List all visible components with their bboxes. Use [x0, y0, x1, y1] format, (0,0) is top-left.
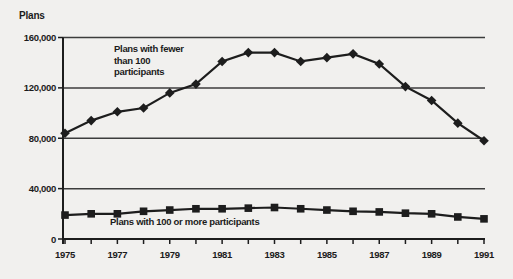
data-point-diamond — [165, 88, 175, 98]
y-tick-label: 80,000 — [29, 133, 56, 144]
data-point-square — [166, 206, 174, 214]
y-axis-title: Plans — [19, 10, 45, 21]
data-point-square — [140, 207, 148, 215]
data-point-diamond — [244, 48, 254, 58]
y-tick-label: 160,000 — [24, 32, 56, 43]
data-point-square — [245, 204, 253, 212]
annotation-line: Plans with 100 or more participants — [110, 216, 259, 228]
data-point-diamond — [348, 49, 358, 59]
y-tick-label: 40,000 — [29, 183, 56, 194]
x-tick-label: 1987 — [369, 249, 389, 260]
x-tick-label: 1983 — [265, 249, 285, 260]
data-point-diamond — [86, 116, 96, 126]
x-tick-label: 1977 — [107, 249, 127, 260]
y-tick-label: 0 — [51, 234, 56, 245]
data-point-square — [271, 204, 279, 212]
data-point-diamond — [270, 48, 280, 58]
data-point-diamond — [139, 103, 149, 113]
annotation-small-plans: Plans with fewer than 100 participants — [114, 43, 184, 78]
data-point-square — [349, 207, 357, 215]
x-tick-label: 1991 — [474, 249, 495, 260]
x-tick-label: 1979 — [160, 249, 180, 260]
annotation-line: Plans with fewer — [114, 43, 184, 55]
annotation-line: participants — [114, 66, 184, 78]
data-point-square — [61, 211, 69, 219]
data-point-diamond — [296, 57, 306, 67]
x-tick-label: 1975 — [55, 249, 76, 260]
annotation-large-plans: Plans with 100 or more participants — [110, 216, 259, 228]
data-point-square — [375, 208, 383, 216]
x-tick-label: 1985 — [317, 249, 338, 260]
data-point-diamond — [113, 107, 123, 117]
data-point-square — [480, 215, 488, 223]
data-point-diamond — [60, 128, 70, 138]
data-point-square — [454, 213, 462, 221]
data-point-square — [428, 210, 436, 218]
annotation-line: than 100 — [114, 55, 184, 67]
chart-canvas: 040,00080,000120,000160,0001975197719791… — [0, 0, 513, 279]
x-tick-label: 1989 — [422, 249, 442, 260]
y-tick-label: 120,000 — [24, 82, 56, 93]
figure: 040,00080,000120,000160,0001975197719791… — [0, 0, 513, 279]
data-point-diamond — [322, 53, 332, 63]
data-point-square — [323, 206, 331, 214]
data-point-square — [87, 210, 95, 218]
data-point-square — [297, 205, 305, 213]
data-point-square — [192, 205, 200, 213]
data-point-square — [402, 209, 410, 217]
x-tick-label: 1981 — [212, 249, 233, 260]
data-point-square — [218, 205, 226, 213]
